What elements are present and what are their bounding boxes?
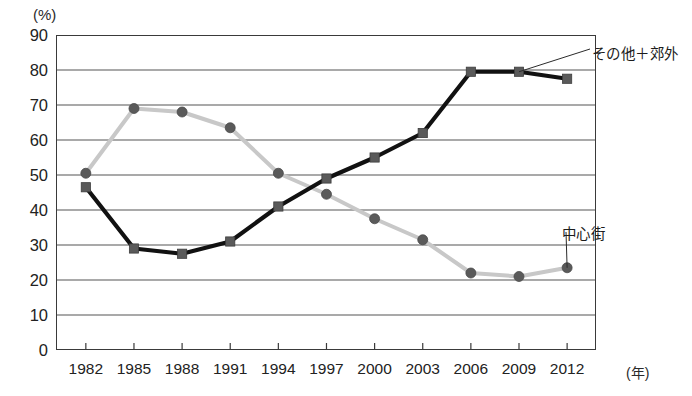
chart-container: (%) (年) 0102030405060708090 198219851988… [0, 0, 692, 396]
annotation-leader-line [519, 49, 590, 72]
series-label-other-suburb: その他＋郊外 [592, 42, 678, 63]
series-label-center: 中心街 [562, 222, 605, 243]
annotation-leader-lines [0, 0, 692, 396]
